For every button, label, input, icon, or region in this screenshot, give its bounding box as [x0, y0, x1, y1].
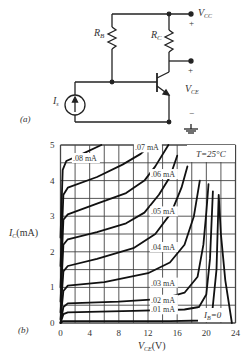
- x-axis-label: VCE(V): [138, 340, 166, 352]
- x-tick-label: 24: [231, 328, 241, 338]
- y-tick-label: 2: [50, 247, 55, 257]
- vce-plus-terminal: [189, 59, 193, 63]
- curve-labels: .08 mA.07 mA.06 mA.05 mA.04 mA.03 mA.02 …: [72, 142, 178, 314]
- rb-resistor: [108, 27, 116, 49]
- x-tick-label: 4: [87, 328, 92, 338]
- x-tick-label: 16: [173, 328, 183, 338]
- y-tick-label: 5: [50, 140, 55, 150]
- x-tick-label: 20: [202, 328, 212, 338]
- npn-transistor-icon: [157, 72, 169, 122]
- vcc-terminal: [189, 12, 193, 16]
- is-label: Is: [52, 95, 59, 107]
- rc-resistor: [165, 30, 173, 52]
- circuit-labels: RB RC VCC + + VCE − Is (a): [20, 7, 213, 124]
- vce-plus: +: [188, 65, 193, 75]
- figure: RB RC VCC + + VCE − Is (a) .08 mA.07 mA.…: [0, 0, 247, 361]
- ib-zero-label: IB=0: [203, 310, 222, 321]
- panel-a-label: (a): [20, 114, 31, 124]
- y-tick-label: 4: [50, 176, 55, 186]
- y-tick-label: 0: [50, 318, 55, 328]
- circuit-diagram: [65, 12, 198, 133]
- vcc-plus: +: [189, 18, 194, 28]
- panel-b-label: (b): [18, 325, 29, 335]
- y-tick-label: 1: [50, 282, 55, 292]
- x-tick-label: 0: [58, 328, 63, 338]
- x-tick-label: 12: [144, 328, 153, 338]
- curve-label: .04 mA: [151, 243, 175, 252]
- curve-label: .03 mA: [151, 279, 175, 288]
- curve-label: .05 mA: [151, 207, 175, 216]
- ground-icon: [184, 124, 198, 133]
- vcc-label: VCC: [198, 7, 213, 19]
- x-tick-label: 8: [117, 328, 122, 338]
- vce-label: VCE: [185, 83, 199, 95]
- y-tick-label: 3: [50, 211, 55, 221]
- curve-label: .02 mA: [151, 296, 175, 305]
- rb-label: RB: [93, 27, 105, 40]
- rc-label: RC: [150, 29, 162, 42]
- vce-minus: −: [189, 108, 194, 118]
- temperature-annotation: T=25°C: [196, 149, 227, 159]
- curve-label: .01 mA: [151, 305, 175, 314]
- curve--02-mA: [61, 184, 209, 323]
- y-axis-label: IC(mA): [8, 227, 38, 239]
- curve--04-mA: [61, 166, 188, 312]
- curve-label: .07 mA: [135, 143, 159, 152]
- curve-label: .08 mA: [73, 154, 97, 163]
- curve-label: .06 mA: [151, 170, 175, 179]
